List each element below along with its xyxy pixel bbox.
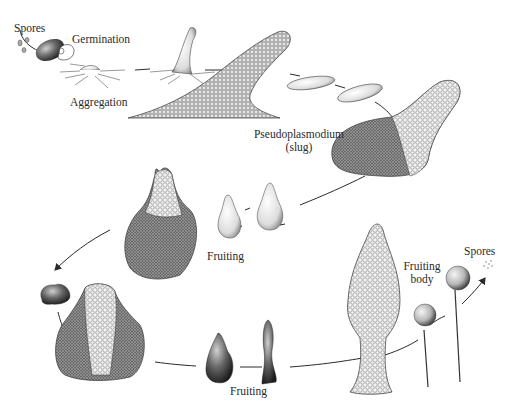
migrating-slugs-illustration — [286, 74, 384, 106]
label-aggregation: Aggregation — [70, 96, 127, 109]
culmination-mass-illustration — [125, 168, 197, 279]
mound-illustration — [150, 28, 215, 85]
aggregation-illustration — [60, 64, 125, 88]
label-spores-end: Spores — [464, 245, 495, 258]
label-fruiting-upper: Fruiting — [207, 250, 244, 263]
label-fruiting-body-line2: body — [397, 273, 447, 286]
label-spores-start: Spores — [14, 22, 45, 35]
label-pseudoplasmodium-line1: Pseudoplasmodium — [236, 128, 362, 141]
fruiting-stage-pears-illustration — [218, 183, 283, 238]
tall-culminant-illustration — [347, 224, 400, 394]
lower-fruiting-forms-illustration — [206, 320, 276, 384]
pseudoplasmodium-illustration — [128, 31, 290, 118]
label-germination: Germination — [72, 33, 130, 46]
diagram-artwork — [0, 0, 514, 418]
label-pseudoplasmodium-line2: (slug) — [236, 141, 362, 154]
label-fruiting-body-line1: Fruiting — [397, 260, 447, 273]
label-fruiting-lower: Fruiting — [230, 385, 267, 398]
label-pseudoplasmodium: Pseudoplasmodium (slug) — [236, 128, 362, 153]
label-fruiting-body: Fruiting body — [397, 260, 447, 285]
released-spores-illustration — [483, 260, 492, 268]
life-cycle-diagram: Spores Germination Aggregation Pseudopla… — [0, 0, 514, 418]
germination-illustration — [32, 35, 74, 66]
early-culminant-illustration — [41, 284, 70, 304]
